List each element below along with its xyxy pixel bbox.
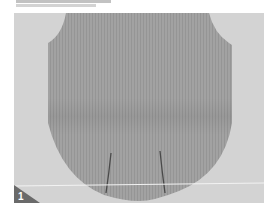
instruction-photo: 1 bbox=[14, 13, 264, 203]
caption-text-cropped bbox=[16, 0, 111, 7]
garment-image bbox=[14, 13, 264, 203]
caption-line bbox=[16, 4, 96, 7]
step-number-badge: 1 bbox=[14, 185, 40, 203]
step-number: 1 bbox=[18, 192, 24, 202]
caption-line bbox=[16, 0, 111, 3]
